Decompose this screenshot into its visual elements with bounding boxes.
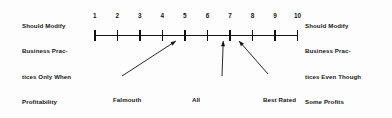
- rating-scale-figure: Should Modify Business Prac- tices Only …: [0, 0, 392, 118]
- pointer-all-companies: [221, 41, 225, 76]
- annotation-label-best-rated: Best Rated Companies (7.4): [263, 79, 297, 118]
- pointer-falmouth: [122, 41, 176, 76]
- annotation-label-falmouth: Falmouth (4.6): [113, 79, 141, 118]
- best-rated-name-line-1: Best Rated: [263, 96, 297, 104]
- pointer-best-rated-companies: [239, 41, 268, 74]
- annotation-label-all-companies: All Companies (6.7): [192, 79, 226, 118]
- falmouth-name: Falmouth: [113, 96, 141, 104]
- all-companies-name-line-1: All: [192, 96, 226, 104]
